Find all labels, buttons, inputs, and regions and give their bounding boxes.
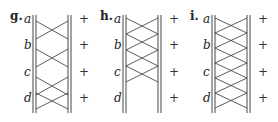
plus-sign: + bbox=[258, 65, 268, 79]
row-label-c: c bbox=[24, 65, 31, 79]
row-label-b: b bbox=[203, 38, 211, 52]
row-label-c: c bbox=[203, 65, 210, 79]
plus-sign: + bbox=[79, 91, 89, 105]
cross-link bbox=[126, 66, 158, 82]
row-label-b: b bbox=[114, 38, 122, 52]
row-label-d: d bbox=[24, 91, 32, 105]
panel-h: h.a+b+c+d+ bbox=[100, 9, 179, 113]
cross-link bbox=[36, 21, 68, 39]
panel-label: i. bbox=[190, 9, 199, 23]
plus-sign: + bbox=[258, 38, 268, 52]
plus-sign: + bbox=[258, 12, 268, 26]
cross-link bbox=[36, 93, 68, 109]
row-label-d: d bbox=[203, 91, 211, 105]
cross-link bbox=[126, 18, 158, 34]
plus-sign: + bbox=[169, 65, 179, 79]
row-label-a: a bbox=[203, 12, 210, 26]
plus-sign: + bbox=[258, 91, 268, 105]
plus-sign: + bbox=[169, 12, 179, 26]
cross-link bbox=[36, 49, 68, 67]
panel-g: g.a+b+c+d+ bbox=[10, 9, 89, 113]
cross-link bbox=[215, 33, 247, 48]
cross-link bbox=[215, 93, 247, 108]
cross-link bbox=[215, 18, 247, 33]
row-label-c: c bbox=[114, 65, 121, 79]
cross-link bbox=[36, 77, 68, 95]
cross-link bbox=[215, 78, 247, 93]
plus-sign: + bbox=[169, 91, 179, 105]
cross-link bbox=[126, 34, 158, 50]
panel-label: h. bbox=[100, 9, 113, 23]
cross-link bbox=[215, 63, 247, 78]
ladder-diagram: g.a+b+c+d+h.a+b+c+d+i.a+b+c+d+ bbox=[0, 0, 278, 122]
cross-link bbox=[126, 50, 158, 66]
plus-sign: + bbox=[79, 65, 89, 79]
panel-i: i.a+b+c+d+ bbox=[190, 9, 268, 113]
row-label-a: a bbox=[24, 12, 31, 26]
plus-sign: + bbox=[79, 12, 89, 26]
plus-sign: + bbox=[79, 38, 89, 52]
row-label-a: a bbox=[114, 12, 121, 26]
row-label-b: b bbox=[24, 38, 32, 52]
plus-sign: + bbox=[169, 38, 179, 52]
cross-link bbox=[215, 48, 247, 63]
row-label-d: d bbox=[114, 91, 122, 105]
panel-label: g. bbox=[10, 9, 23, 23]
